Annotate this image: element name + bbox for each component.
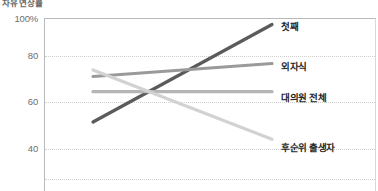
series-label-first-born: 첫째	[281, 19, 298, 33]
slope-chart-figure: 자유 연상률 100% 80 60 40 첫째 외자식 대의원 전체 후순위 출…	[0, 0, 378, 191]
series-label-only-child: 외자식	[281, 59, 307, 73]
series-line-later-born	[93, 70, 272, 139]
series-label-later-born: 후순위 출생자	[281, 140, 335, 154]
series-label-all-delegates: 대의원 전체	[281, 90, 326, 104]
